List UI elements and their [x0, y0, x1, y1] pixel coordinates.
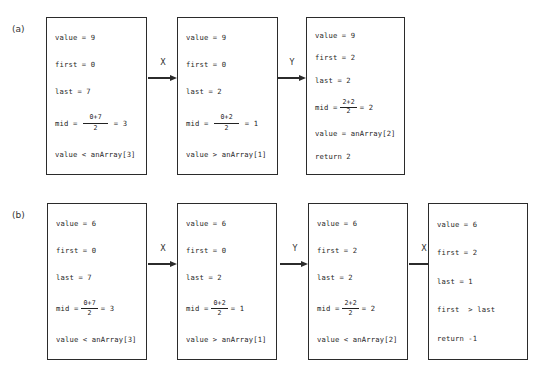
row-b-step-3-line-1: value = 6 — [317, 219, 407, 228]
mid-prefix: mid = — [315, 103, 337, 112]
fraction: 0+7 2 — [83, 114, 107, 132]
figure-canvas: (a) value = 9 first = 0 last = 7 mid = 0… — [0, 0, 549, 376]
row-a-arrow-2 — [278, 74, 306, 82]
mid-suffix: = 3 — [114, 119, 127, 128]
fraction-numerator: 2+2 — [342, 300, 358, 308]
fraction: 0+2 2 — [214, 114, 238, 132]
row-b-step-3-mid-formula: mid = 2+2 2 = 2 — [317, 300, 407, 317]
row-b-step-4-line-1: value = 6 — [437, 220, 527, 229]
mid-prefix: mid = — [56, 304, 78, 313]
row-a-arrow-1-label: X — [150, 58, 176, 67]
row-a-step-1-mid-formula: mid = 0+7 2 = 3 — [55, 114, 146, 132]
row-b-step-1-line-2: first = 0 — [56, 246, 146, 255]
fraction-denominator: 2 — [216, 309, 224, 317]
row-a-step-3-box: value = 9 first = 2 last = 2 mid = 2+2 2… — [306, 17, 405, 175]
row-b-step-4-line-3: last = 1 — [437, 277, 527, 286]
row-b-step-3-line-2: first = 2 — [317, 246, 407, 255]
row-a-step-2-line-1: value = 9 — [186, 33, 277, 42]
fraction-numerator: 0+7 — [83, 114, 107, 122]
arrow-shaft — [280, 263, 302, 264]
row-b-step-4-line-2: first = 2 — [437, 248, 527, 257]
mid-suffix: = 3 — [101, 304, 114, 313]
mid-prefix: mid = — [186, 304, 208, 313]
fraction-denominator: 2 — [88, 124, 104, 132]
mid-prefix: mid = — [186, 119, 208, 128]
row-b-step-2-line-3: last = 2 — [186, 273, 276, 282]
row-label-a: (a) — [12, 24, 25, 34]
row-a-step-2-line-5: value > anArray[1] — [186, 150, 277, 159]
arrow-head-icon — [170, 261, 177, 267]
fraction-numerator: 2+2 — [340, 99, 356, 107]
row-a-step-3-mid-formula: mid = 2+2 2 = 2 — [315, 99, 404, 116]
fraction: 0+7 2 — [81, 300, 97, 317]
row-b-step-1-line-5: value < anArray[3] — [56, 335, 146, 344]
row-b-step-2-box: value = 6 first = 0 last = 2 mid = 0+2 2… — [177, 203, 277, 360]
arrow-shaft — [278, 77, 300, 78]
mid-prefix: mid = — [55, 119, 77, 128]
row-b-step-1-line-1: value = 6 — [56, 219, 146, 228]
row-b-step-2-line-5: value > anArray[1] — [186, 335, 276, 344]
fraction-numerator: 0+7 — [81, 300, 97, 308]
row-a-step-1-box: value = 9 first = 0 last = 7 mid = 0+7 2… — [46, 17, 147, 175]
row-a-step-1-line-3: last = 7 — [55, 87, 146, 96]
row-a-step-2-line-3: last = 2 — [186, 87, 277, 96]
row-a-step-3-line-5: value = anArray[2] — [315, 129, 404, 138]
mid-suffix: = 1 — [231, 304, 244, 313]
fraction-numerator: 0+2 — [211, 300, 227, 308]
row-b-step-3-box: value = 6 first = 2 last = 2 mid = 2+2 2… — [308, 203, 408, 360]
arrow-head-icon — [299, 75, 306, 81]
fraction-denominator: 2 — [347, 309, 355, 317]
row-a-step-1-line-5: value < anArray[3] — [55, 150, 146, 159]
fraction-denominator: 2 — [86, 309, 94, 317]
fraction: 2+2 2 — [342, 300, 358, 317]
row-b-step-2-mid-formula: mid = 0+2 2 = 1 — [186, 300, 276, 317]
fraction-numerator: 0+2 — [214, 114, 238, 122]
row-b-step-1-line-3: last = 7 — [56, 273, 146, 282]
row-b-step-4-line-4: first > last — [437, 306, 527, 315]
row-a-step-3-line-1: value = 9 — [315, 31, 404, 40]
row-b-arrow-1-label: X — [150, 244, 176, 253]
row-label-b: (b) — [12, 210, 25, 220]
row-a-step-1-line-2: first = 0 — [55, 60, 146, 69]
row-b-arrow-2 — [280, 260, 308, 268]
row-b-step-2-line-1: value = 6 — [186, 219, 276, 228]
mid-suffix: = 1 — [245, 119, 258, 128]
row-a-step-1-line-1: value = 9 — [55, 33, 146, 42]
arrow-head-icon — [170, 75, 177, 81]
row-b-step-1-mid-formula: mid = 0+7 2 = 3 — [56, 300, 146, 317]
row-a-step-2-line-2: first = 0 — [186, 60, 277, 69]
arrow-shaft — [148, 263, 171, 264]
row-a-arrow-2-label: Y — [279, 58, 305, 67]
mid-suffix: = 2 — [362, 304, 375, 313]
row-a-step-3-line-3: last = 2 — [315, 76, 404, 85]
row-b-step-3-line-5: value < anArray[2] — [317, 335, 407, 344]
row-b-step-3-line-3: last = 2 — [317, 273, 407, 282]
fraction: 2+2 2 — [340, 99, 356, 116]
arrow-shaft — [148, 77, 171, 78]
fraction: 0+2 2 — [211, 300, 227, 317]
fraction-denominator: 2 — [345, 108, 353, 116]
row-b-step-4-line-5: return -1 — [437, 334, 527, 343]
fraction-denominator: 2 — [219, 124, 235, 132]
row-a-step-2-box: value = 9 first = 0 last = 2 mid = 0+2 2… — [177, 17, 278, 175]
row-b-step-4-box: value = 6 first = 2 last = 1 first > las… — [428, 203, 528, 360]
mid-suffix: = 2 — [360, 103, 373, 112]
row-a-arrow-1 — [148, 74, 177, 82]
row-a-step-3-line-6: return 2 — [315, 152, 404, 161]
row-a-step-3-line-2: first = 2 — [315, 54, 404, 63]
row-b-step-1-box: value = 6 first = 0 last = 7 mid = 0+7 2… — [47, 203, 147, 360]
row-b-arrow-2-label: Y — [282, 244, 308, 253]
row-b-arrow-1 — [148, 260, 177, 268]
row-a-step-2-mid-formula: mid = 0+2 2 = 1 — [186, 114, 277, 132]
row-b-step-2-line-2: first = 0 — [186, 246, 276, 255]
mid-prefix: mid = — [317, 304, 339, 313]
arrow-head-icon — [301, 261, 308, 267]
